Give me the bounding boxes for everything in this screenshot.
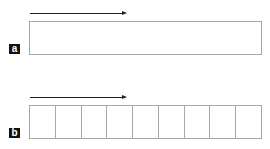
- box-cell: [30, 106, 56, 138]
- box-cell: [210, 106, 236, 138]
- box-cell: [82, 106, 108, 138]
- arrow-icon: [30, 13, 123, 14]
- panel-a: a: [0, 0, 270, 74]
- box-cell: [107, 106, 133, 138]
- single-box: [29, 21, 262, 55]
- box-cell: [30, 22, 261, 54]
- box-cell: [185, 106, 211, 138]
- box-cell: [159, 106, 185, 138]
- segmented-box: [29, 105, 262, 139]
- box-cell: [236, 106, 261, 138]
- panel-label: b: [9, 128, 20, 138]
- arrow-icon: [30, 97, 123, 98]
- box-cell: [56, 106, 82, 138]
- panel-b: b: [0, 75, 270, 149]
- box-cell: [133, 106, 159, 138]
- panel-label: a: [9, 44, 20, 54]
